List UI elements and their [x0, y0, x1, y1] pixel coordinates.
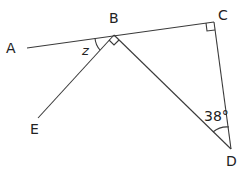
- label-angle-38: 38°: [204, 108, 229, 124]
- label-e: E: [30, 121, 39, 137]
- line-ac: [27, 22, 214, 48]
- segment-be: [38, 35, 114, 118]
- angle-arc-d: [213, 127, 229, 132]
- label-d: D: [226, 153, 237, 169]
- label-angle-z: z: [81, 43, 90, 58]
- label-b: B: [109, 10, 119, 26]
- label-c: C: [218, 7, 228, 23]
- angle-arc-z: [95, 38, 100, 50]
- right-angle-marker-c: [206, 23, 215, 31]
- geometry-diagram: A B C D E z 38°: [0, 0, 247, 172]
- right-angle-marker-b: [109, 40, 119, 45]
- label-a: A: [6, 40, 16, 56]
